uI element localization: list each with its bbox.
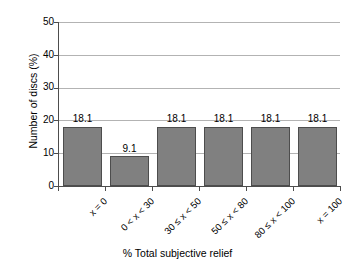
x-tick-mark-2 (152, 186, 153, 191)
bar-slot-1: 18.1 (59, 22, 106, 186)
x-tick-mark-6 (340, 186, 341, 191)
bar-x-equals-100[interactable] (298, 127, 337, 186)
y-tick-label-30: 30 (28, 82, 54, 92)
y-tick-label-50: 50 (28, 17, 54, 27)
bars-layer: 18.1 9.1 18.1 18.1 18.1 18.1 (58, 22, 340, 186)
y-tick-label-10: 10 (28, 148, 54, 158)
x-tick-mark-1 (105, 186, 106, 191)
bar-50-le-x-lt-80[interactable] (204, 127, 243, 186)
bar-30-le-x-lt-50[interactable] (157, 127, 196, 186)
bar-value-3: 18.1 (153, 114, 200, 124)
bar-value-1: 18.1 (59, 114, 106, 124)
bar-x-equals-0[interactable] (63, 127, 102, 186)
x-tick-mark-0 (58, 186, 59, 191)
bar-value-4: 18.1 (200, 114, 247, 124)
bar-slot-4: 18.1 (200, 22, 247, 186)
bar-value-6: 18.1 (294, 114, 341, 124)
x-tick-mark-5 (293, 186, 294, 191)
bar-chart: Number of discs (%) 50 40 30 20 10 0 18.… (0, 0, 355, 266)
y-tick-label-0: 0 (28, 181, 54, 191)
bar-0-lt-x-lt-30[interactable] (110, 156, 149, 186)
x-tick-mark-3 (199, 186, 200, 191)
bar-slot-3: 18.1 (153, 22, 200, 186)
bar-slot-2: 9.1 (106, 22, 153, 186)
y-tick-label-40: 40 (28, 50, 54, 60)
bar-value-2: 9.1 (106, 144, 153, 154)
x-axis-title: % Total subjective relief (0, 247, 355, 259)
bar-slot-5: 18.1 (247, 22, 294, 186)
plot-area: 18.1 9.1 18.1 18.1 18.1 18.1 (58, 22, 340, 186)
x-tick-mark-4 (246, 186, 247, 191)
bar-80-le-x-lt-100[interactable] (251, 127, 290, 186)
y-tick-label-20: 20 (28, 115, 54, 125)
bar-value-5: 18.1 (247, 114, 294, 124)
bar-slot-6: 18.1 (294, 22, 341, 186)
